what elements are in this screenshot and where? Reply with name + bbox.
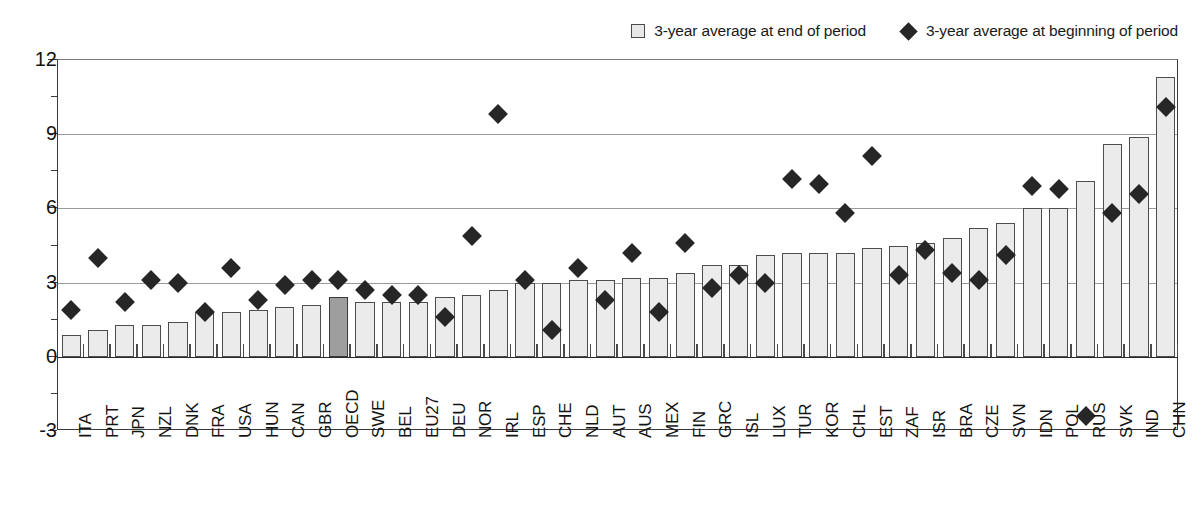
x-tick-stub: [376, 344, 378, 357]
x-tick-stub: [937, 344, 939, 357]
x-tick-stub: [483, 344, 485, 357]
legend-label-beginning-of-period: 3-year average at beginning of period: [926, 22, 1178, 40]
marker-OECD[interactable]: [328, 270, 348, 290]
x-tick-stub: [1097, 344, 1099, 357]
legend-entry-end-of-period: 3-year average at end of period: [631, 22, 866, 40]
bar-NOR[interactable]: [462, 295, 481, 357]
marker-KOR[interactable]: [809, 174, 829, 194]
bar-JPN[interactable]: [115, 325, 134, 357]
bar-CAN[interactable]: [275, 307, 294, 356]
x-axis-label-POL: POL: [1064, 405, 1081, 438]
marker-NOR[interactable]: [462, 226, 482, 246]
y-axis-label-3: 3: [15, 272, 57, 292]
x-tick-stub: [750, 344, 752, 357]
x-tick-stub: [616, 344, 618, 357]
x-tick-stub: [510, 344, 512, 357]
marker-EST[interactable]: [862, 147, 882, 167]
bar-NZL[interactable]: [142, 325, 161, 357]
bar-ZAF[interactable]: [889, 246, 908, 357]
bar-OECD[interactable]: [329, 297, 348, 356]
bar-FIN[interactable]: [676, 273, 695, 357]
x-axis-label-RUS: RUS: [1091, 403, 1108, 438]
bar-ESP[interactable]: [515, 283, 534, 357]
x-axis-label-FIN: FIN: [691, 411, 708, 438]
x-axis-label-TUR: TUR: [797, 404, 814, 438]
marker-POL[interactable]: [1049, 179, 1069, 199]
y-axis-label--3: -3: [15, 420, 57, 440]
bar-TUR[interactable]: [782, 253, 801, 357]
marker-PRT[interactable]: [88, 248, 108, 268]
marker-TUR[interactable]: [782, 169, 802, 189]
bar-IND[interactable]: [1129, 137, 1148, 357]
bar-PRT[interactable]: [88, 330, 107, 357]
x-tick-stub: [1043, 344, 1045, 357]
x-axis-label-NLD: NLD: [584, 405, 601, 438]
x-axis-label-HUN: HUN: [264, 402, 281, 438]
gridline-0: [58, 357, 1177, 358]
bar-USA[interactable]: [222, 312, 241, 357]
x-tick-stub: [163, 344, 165, 357]
bar-GBR[interactable]: [302, 305, 321, 357]
marker-CHL[interactable]: [835, 203, 855, 223]
x-axis-label-ISL: ISL: [744, 413, 761, 438]
bar-HUN[interactable]: [249, 310, 268, 357]
x-tick-stub: [1177, 344, 1179, 357]
bar-BEL[interactable]: [382, 302, 401, 356]
x-axis-label-LUX: LUX: [771, 406, 788, 438]
x-axis-label-GRC: GRC: [717, 401, 734, 438]
x-axis-label-CHE: CHE: [557, 403, 574, 438]
marker-AUS[interactable]: [622, 243, 642, 263]
x-tick-stub: [803, 344, 805, 357]
bar-RUS[interactable]: [1076, 181, 1095, 357]
x-axis-label-DNK: DNK: [184, 403, 201, 438]
chart-container: 3-year average at end of period 3-year a…: [0, 0, 1204, 514]
marker-FIN[interactable]: [675, 233, 695, 253]
y-axis-label-0: 0: [15, 346, 57, 366]
marker-DNK[interactable]: [168, 273, 188, 293]
bar-IRL[interactable]: [489, 290, 508, 357]
bar-KOR[interactable]: [809, 253, 828, 357]
bar-IDN[interactable]: [1023, 208, 1042, 356]
marker-NZL[interactable]: [142, 270, 162, 290]
bar-CHL[interactable]: [836, 253, 855, 357]
x-tick-stub: [296, 344, 298, 357]
bar-EU27[interactable]: [409, 302, 428, 356]
marker-IRL[interactable]: [488, 105, 508, 125]
marker-USA[interactable]: [222, 258, 242, 278]
marker-CAN[interactable]: [275, 275, 295, 295]
bar-DNK[interactable]: [168, 322, 187, 357]
bar-SVN[interactable]: [996, 223, 1015, 357]
bar-CHN[interactable]: [1156, 77, 1175, 356]
x-tick-stub: [430, 344, 432, 357]
x-axis-label-USA: USA: [237, 404, 254, 438]
marker-IDN[interactable]: [1022, 176, 1042, 196]
bar-EST[interactable]: [862, 248, 881, 357]
x-axis-label-DEU: DEU: [451, 403, 468, 438]
x-axis-label-ITA: ITA: [77, 413, 94, 438]
x-tick-stub: [910, 344, 912, 357]
x-tick-stub: [883, 344, 885, 357]
x-tick-stub: [1150, 344, 1152, 357]
marker-HUN[interactable]: [248, 290, 268, 310]
x-axis-label-SVK: SVK: [1118, 405, 1135, 438]
bar-BRA[interactable]: [943, 238, 962, 357]
marker-JPN[interactable]: [115, 292, 135, 312]
bar-AUS[interactable]: [622, 278, 641, 357]
bar-POL[interactable]: [1049, 208, 1068, 356]
bar-CZE[interactable]: [969, 228, 988, 357]
bar-NLD[interactable]: [569, 280, 588, 357]
x-axis-label-KOR: KOR: [824, 402, 841, 438]
marker-ITA[interactable]: [61, 300, 81, 320]
bar-SVK[interactable]: [1103, 144, 1122, 357]
bar-SWE[interactable]: [355, 302, 374, 356]
x-tick-stub: [136, 344, 138, 357]
x-tick-stub: [777, 344, 779, 357]
x-axis-label-ESP: ESP: [531, 405, 548, 438]
x-tick-stub: [109, 344, 111, 357]
x-tick-stub: [83, 344, 85, 357]
marker-GBR[interactable]: [302, 270, 322, 290]
marker-NLD[interactable]: [569, 258, 589, 278]
bar-LUX[interactable]: [756, 255, 775, 356]
bar-ITA[interactable]: [62, 335, 81, 357]
bar-ISR[interactable]: [916, 243, 935, 357]
